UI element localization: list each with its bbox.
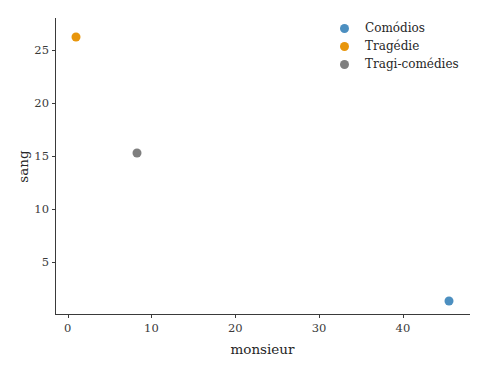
x-tick-label: 30 xyxy=(312,321,327,335)
legend-marker-icon xyxy=(340,42,349,51)
legend-item-label: Tragi-comédies xyxy=(365,57,459,71)
x-tick-label: 0 xyxy=(64,321,71,335)
scatter-chart-figure: 510152025 010203040 sang monsieur Comódi… xyxy=(0,0,479,375)
data-point xyxy=(133,148,142,157)
y-axis-label: sang xyxy=(14,18,32,315)
chart-legend: ComódiosTragédieTragi-comédies xyxy=(340,20,459,74)
legend-marker-icon xyxy=(340,60,349,69)
y-tick-label: 10 xyxy=(34,202,49,216)
legend-item[interactable]: Comódios xyxy=(340,20,459,36)
x-axis-spine xyxy=(55,314,470,315)
legend-item[interactable]: Tragédie xyxy=(340,38,459,54)
legend-item-label: Tragédie xyxy=(365,39,419,53)
x-tick-mark xyxy=(403,315,404,318)
y-tick-mark xyxy=(52,156,55,157)
y-tick-label: 5 xyxy=(42,255,49,269)
x-tick-mark xyxy=(68,315,69,318)
x-tick-mark xyxy=(235,315,236,318)
y-tick-mark xyxy=(52,50,55,51)
y-tick-mark xyxy=(52,103,55,104)
legend-item[interactable]: Tragi-comédies xyxy=(340,56,459,72)
y-tick-label: 25 xyxy=(34,43,49,57)
data-point xyxy=(445,297,454,306)
y-axis-spine xyxy=(55,18,56,315)
data-point xyxy=(71,33,80,42)
legend-item-label: Comódios xyxy=(365,21,425,35)
x-tick-mark xyxy=(151,315,152,318)
x-tick-mark xyxy=(319,315,320,318)
y-tick-mark xyxy=(52,209,55,210)
y-tick-label: 15 xyxy=(34,149,49,163)
x-axis-label: monsieur xyxy=(55,341,470,357)
y-tick-label: 20 xyxy=(34,96,49,110)
x-tick-label: 20 xyxy=(228,321,243,335)
x-tick-label: 40 xyxy=(396,321,411,335)
y-tick-mark xyxy=(52,262,55,263)
legend-marker-icon xyxy=(340,24,349,33)
x-tick-label: 10 xyxy=(144,321,159,335)
